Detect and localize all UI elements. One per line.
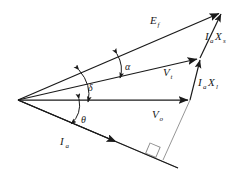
label-Ia-subscript: a xyxy=(66,142,70,150)
label-Vo-subscript: o xyxy=(160,115,164,123)
phasor-diagram: E f V t V o I a I a X s I a X l α δ θ xyxy=(0,0,250,174)
label-IaXl-symbol2: X xyxy=(207,76,216,88)
label-IaXs-symbol2: X xyxy=(214,30,223,42)
label-IaXs-subscript2: s xyxy=(223,37,226,45)
label-IaXs-subscript1: a xyxy=(210,37,214,45)
label-IaXl-subscript1: a xyxy=(203,83,207,91)
label-IaXl-subscript2: l xyxy=(216,83,218,91)
label-theta: θ xyxy=(81,114,86,125)
label-delta: δ xyxy=(88,82,93,93)
label-alpha: α xyxy=(125,61,131,72)
label-Ef-symbol: E xyxy=(149,14,157,26)
